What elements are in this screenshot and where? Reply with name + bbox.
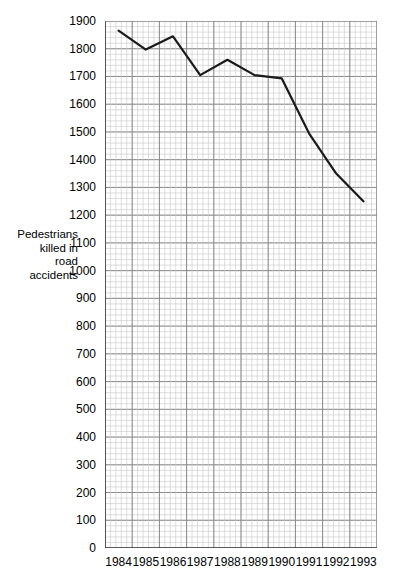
plot-area — [105, 21, 377, 548]
plot-frame-axes — [105, 21, 377, 548]
x-tick-label: 1993 — [343, 556, 383, 568]
line-chart-figure: Pedestrians killed in road accidents 010… — [0, 0, 401, 575]
